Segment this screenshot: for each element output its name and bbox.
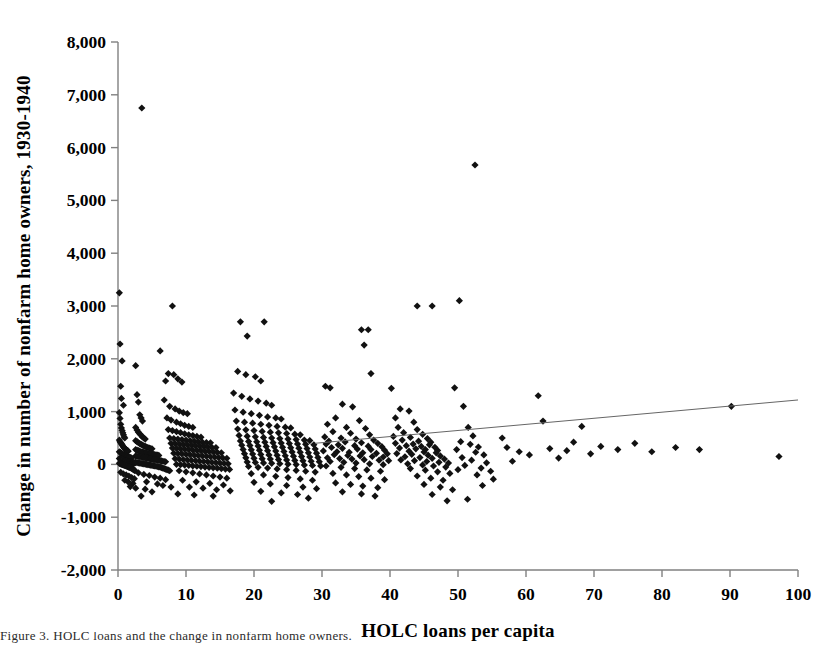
data-point-marker: [244, 433, 251, 440]
data-point-marker: [430, 462, 437, 469]
data-point-marker: [555, 454, 562, 461]
data-point-marker: [696, 446, 703, 453]
data-point-marker: [456, 297, 463, 304]
data-point-marker: [339, 401, 346, 408]
data-point-marker: [118, 395, 125, 402]
data-point-marker: [458, 454, 465, 461]
data-point-marker: [526, 451, 533, 458]
data-point-marker: [366, 460, 373, 467]
data-point-marker: [272, 473, 279, 480]
data-point-marker: [320, 447, 327, 454]
data-point-marker: [248, 410, 255, 417]
data-point-marker: [478, 464, 485, 471]
data-point-marker: [242, 426, 249, 433]
data-point-marker: [193, 478, 200, 485]
x-tick-label: 70: [585, 584, 603, 604]
data-point-marker: [143, 478, 150, 485]
data-point-marker: [297, 475, 304, 482]
data-point-marker: [324, 421, 331, 428]
data-point-marker: [278, 489, 285, 496]
data-point-marker: [446, 470, 453, 477]
data-point-marker: [241, 419, 248, 426]
data-point-marker: [272, 414, 279, 421]
x-tick-label: 0: [114, 584, 123, 604]
data-point-marker: [358, 439, 365, 446]
data-point-marker: [174, 490, 181, 497]
data-point-marker: [367, 475, 374, 482]
x-tick-label: 100: [785, 584, 812, 604]
data-point-marker: [146, 472, 153, 479]
data-point-marker: [264, 464, 271, 471]
y-axis-title: Change in number of nonfarm home owners,…: [13, 75, 34, 536]
data-point-marker: [267, 480, 274, 487]
data-point-marker: [138, 492, 145, 499]
data-point-marker: [242, 371, 249, 378]
data-point-marker: [157, 347, 164, 354]
data-point-marker: [142, 486, 149, 493]
y-tick-label: 0: [97, 454, 106, 474]
data-point-marker: [176, 467, 183, 474]
data-point-marker: [305, 495, 312, 502]
data-point-marker: [397, 405, 404, 412]
data-point-marker: [454, 466, 461, 473]
data-point-marker: [563, 447, 570, 454]
data-point-marker: [339, 488, 346, 495]
data-point-marker: [287, 424, 294, 431]
data-point-marker: [356, 417, 363, 424]
data-point-marker: [365, 326, 372, 333]
y-tick-label: 1,000: [67, 402, 107, 422]
data-point-marker: [414, 302, 421, 309]
data-point-marker: [169, 302, 176, 309]
data-point-marker: [237, 318, 244, 325]
y-tick-label: 7,000: [67, 85, 107, 105]
data-point-marker: [148, 488, 155, 495]
data-point-marker: [256, 412, 263, 419]
data-point-marker: [392, 440, 399, 447]
data-point-marker: [469, 432, 476, 439]
data-point-marker: [499, 434, 506, 441]
data-point-marker: [234, 368, 241, 375]
data-point-marker: [503, 444, 510, 451]
data-point-marker: [283, 482, 290, 489]
data-point-marker: [648, 448, 655, 455]
data-point-marker: [182, 468, 189, 475]
data-point-marker: [151, 473, 158, 480]
data-point-marker: [343, 424, 350, 431]
data-point-marker: [240, 409, 247, 416]
data-point-marker: [332, 479, 339, 486]
figure-caption: Figure 3. HOLC loans and the change in n…: [0, 632, 826, 649]
data-point-marker: [385, 457, 392, 464]
data-point-marker: [461, 462, 468, 469]
data-point-marker: [294, 491, 301, 498]
chart-canvas: -2,000-1,00001,0002,0003,0004,0005,0006,…: [0, 0, 826, 649]
data-point-marker: [140, 471, 147, 478]
data-point-marker: [535, 392, 542, 399]
data-point-marker: [460, 403, 467, 410]
data-point-marker: [358, 490, 365, 497]
data-point-marker: [451, 384, 458, 391]
data-point-marker: [252, 433, 259, 440]
data-point-marker: [631, 440, 638, 447]
data-point-marker: [233, 418, 240, 425]
data-point-marker: [133, 391, 140, 398]
data-point-marker: [284, 474, 291, 481]
data-point-marker: [226, 466, 233, 473]
data-point-marker: [614, 446, 621, 453]
data-point-marker: [250, 427, 257, 434]
data-point-marker: [361, 341, 368, 348]
data-point-marker: [165, 370, 172, 377]
data-point-marker: [210, 492, 217, 499]
data-point-marker: [414, 426, 421, 433]
data-point-marker: [254, 397, 261, 404]
data-point-marker: [329, 470, 336, 477]
data-point-marker: [464, 496, 471, 503]
data-point-marker: [434, 468, 441, 475]
data-point-marker: [138, 104, 145, 111]
data-point-marker: [377, 468, 384, 475]
data-point-marker: [546, 445, 553, 452]
y-tick-label: -2,000: [61, 560, 106, 580]
data-point-marker: [371, 492, 378, 499]
data-point-marker: [480, 451, 487, 458]
data-point-marker: [265, 422, 272, 429]
data-point-marker: [516, 448, 523, 455]
